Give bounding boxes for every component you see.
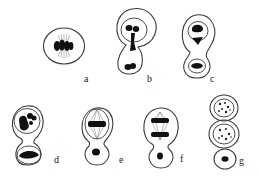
label-g: g [239, 156, 244, 166]
label-f: f [180, 154, 183, 164]
panel-a-cell [44, 28, 85, 64]
panel-d-chromatin [19, 113, 39, 159]
label-b: b [147, 74, 152, 84]
panel-b-cell [117, 9, 156, 74]
label-a: a [84, 74, 88, 84]
panel-f-cell [144, 108, 178, 168]
panel-f-chromosomes [151, 118, 169, 160]
panel-c-cell [182, 15, 214, 78]
label-e: e [119, 155, 123, 165]
panel-d-cell [12, 106, 43, 165]
panel-g-cell [209, 95, 239, 169]
panel-e-cell [82, 108, 113, 165]
cell-division-diagram [0, 0, 259, 177]
label-c: c [210, 74, 214, 84]
panel-b-chromatin [125, 25, 140, 70]
panel-g-chromatin [218, 102, 232, 162]
panel-a-chromosomes [54, 40, 74, 52]
label-d: d [54, 155, 59, 165]
panel-c-chromatin [191, 25, 203, 69]
